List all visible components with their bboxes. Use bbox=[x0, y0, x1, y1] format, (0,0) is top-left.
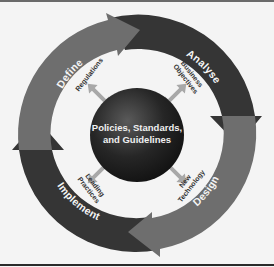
core-label-line-2: and Guidelines bbox=[103, 134, 171, 145]
core-label-line-1: Policies, Standards, bbox=[92, 122, 182, 133]
cycle-diagram: Define Analyse Design Implement bbox=[0, 0, 274, 267]
bottom-border-rule bbox=[0, 264, 274, 266]
diagram-frame: Define Analyse Design Implement bbox=[0, 0, 274, 267]
